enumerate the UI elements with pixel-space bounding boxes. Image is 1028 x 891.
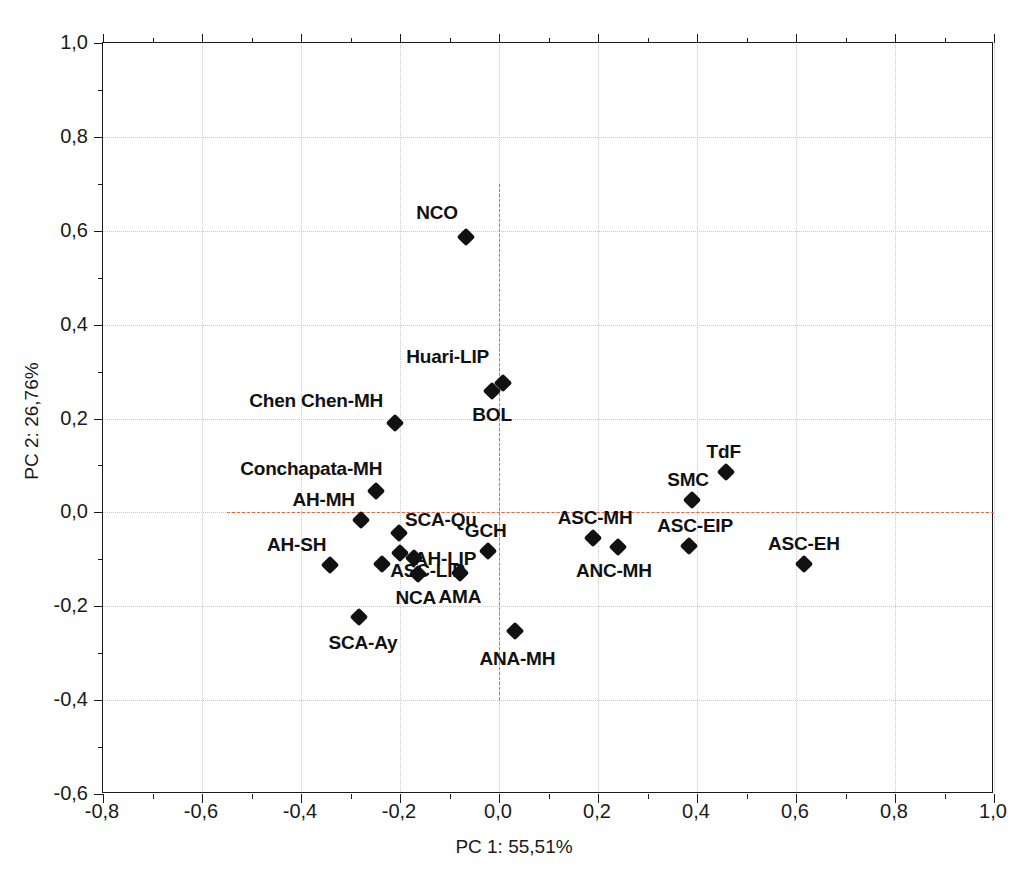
data-point-marker[interactable]: [717, 463, 735, 481]
y-tick-major: [94, 43, 103, 44]
gridline-vertical: [895, 43, 896, 792]
gridline-vertical: [994, 43, 995, 792]
pca-scatter-figure: NCOHuari-LIPBOLChen Chen-MHConchapata-MH…: [0, 0, 1028, 891]
data-point-marker[interactable]: [386, 414, 404, 432]
gridline-horizontal: [103, 325, 992, 326]
x-tick-minor: [252, 38, 253, 43]
x-tick-minor: [252, 794, 253, 799]
gridline-horizontal: [103, 700, 992, 701]
x-tick-minor: [450, 794, 451, 799]
data-point-label: ASC-EIP: [657, 515, 733, 537]
y-tick-major: [94, 419, 103, 420]
x-axis-label: PC 1: 55,51%: [0, 836, 1028, 858]
x-tick-minor: [945, 38, 946, 43]
data-point-marker[interactable]: [506, 621, 524, 639]
reference-line-vertical: [499, 184, 500, 700]
x-tick-minor: [549, 794, 550, 799]
gridline-horizontal: [103, 137, 992, 138]
x-tick-label: 0,4: [682, 800, 710, 823]
x-tick-minor: [549, 38, 550, 43]
data-point-label: Conchapata-MH: [240, 458, 382, 480]
y-tick-major: [94, 325, 103, 326]
y-tick-label: 0,2: [60, 406, 88, 429]
gridline-vertical: [796, 43, 797, 792]
y-axis-label: PC 2: 26,76%: [21, 46, 43, 797]
x-tick-label: 0,0: [484, 800, 512, 823]
x-tick-minor: [846, 794, 847, 799]
data-point-label: ASC-EH: [768, 533, 840, 555]
data-point-label: ANA-MH: [479, 648, 555, 670]
data-point-marker[interactable]: [321, 556, 339, 574]
y-tick-label: -0,6: [54, 782, 88, 805]
data-point-marker[interactable]: [683, 491, 701, 509]
gridline-vertical: [697, 43, 698, 792]
x-tick-minor: [450, 38, 451, 43]
x-tick-major: [202, 34, 203, 43]
y-tick-label: 0,8: [60, 124, 88, 147]
x-tick-label: 0,6: [781, 800, 809, 823]
x-tick-major: [796, 34, 797, 43]
x-tick-minor: [747, 38, 748, 43]
x-tick-minor: [153, 794, 154, 799]
y-tick-minor: [98, 278, 103, 279]
x-tick-minor: [648, 38, 649, 43]
x-tick-major: [301, 34, 302, 43]
data-point-marker[interactable]: [795, 554, 813, 572]
gridline-vertical: [400, 43, 401, 792]
gridline-horizontal: [103, 231, 992, 232]
x-tick-major: [103, 34, 104, 43]
y-tick-major: [94, 512, 103, 513]
y-tick-minor: [98, 184, 103, 185]
y-tick-label: 0,6: [60, 218, 88, 241]
x-tick-minor: [846, 38, 847, 43]
data-point-label: ANC-MH: [576, 560, 652, 582]
x-tick-major: [697, 34, 698, 43]
data-point-label: Chen Chen-MH: [249, 390, 383, 412]
data-point-label: AH-SH: [267, 534, 326, 556]
y-tick-minor: [98, 653, 103, 654]
y-tick-minor: [98, 90, 103, 91]
plot-area: NCOHuari-LIPBOLChen Chen-MHConchapata-MH…: [102, 42, 993, 793]
x-tick-minor: [153, 38, 154, 43]
y-tick-minor: [98, 372, 103, 373]
data-point-label: TdF: [707, 441, 741, 463]
data-point-label: NCO: [416, 202, 458, 224]
y-tick-major: [94, 606, 103, 607]
y-tick-minor: [98, 559, 103, 560]
y-tick-label: 0,4: [60, 312, 88, 335]
x-tick-minor: [351, 38, 352, 43]
x-tick-minor: [945, 794, 946, 799]
x-tick-major: [895, 34, 896, 43]
data-point-marker[interactable]: [352, 511, 370, 529]
data-point-label: BOL: [472, 404, 512, 426]
y-tick-label: 0,0: [60, 500, 88, 523]
x-tick-label: -0,8: [85, 800, 119, 823]
y-tick-major: [94, 794, 103, 795]
y-tick-minor: [98, 465, 103, 466]
data-point-label: SCA-Ay: [328, 632, 397, 654]
x-tick-label: 0,2: [583, 800, 611, 823]
gridline-vertical: [598, 43, 599, 792]
x-tick-label: -0,2: [382, 800, 416, 823]
data-point-marker[interactable]: [680, 536, 698, 554]
y-tick-major: [94, 700, 103, 701]
x-tick-label: -0,6: [184, 800, 218, 823]
data-point-label: GCH: [465, 520, 507, 542]
data-point-label: Huari-LIP: [406, 346, 489, 368]
data-point-marker[interactable]: [350, 607, 368, 625]
x-tick-major: [400, 34, 401, 43]
data-point-marker[interactable]: [584, 529, 602, 547]
data-point-label: SMC: [667, 469, 709, 491]
data-point-marker[interactable]: [609, 537, 627, 555]
x-tick-minor: [351, 794, 352, 799]
data-point-marker[interactable]: [367, 482, 385, 500]
x-tick-label: -0,4: [283, 800, 317, 823]
gridline-vertical: [301, 43, 302, 792]
data-point-label: ASC-MH: [558, 507, 633, 529]
data-point-marker[interactable]: [373, 555, 391, 573]
x-tick-major: [598, 34, 599, 43]
x-tick-major: [994, 34, 995, 43]
y-tick-label: 1,0: [60, 31, 88, 54]
data-point-marker[interactable]: [478, 542, 496, 560]
gridline-horizontal: [103, 419, 992, 420]
